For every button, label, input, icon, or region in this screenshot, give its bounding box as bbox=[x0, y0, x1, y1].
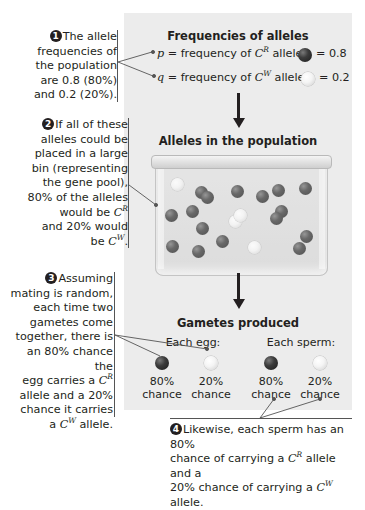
connector-lines bbox=[0, 0, 365, 471]
